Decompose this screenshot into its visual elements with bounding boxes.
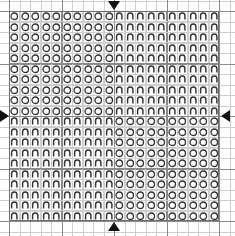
stitch-cell bbox=[114, 106, 125, 117]
stitch-cell bbox=[167, 127, 178, 138]
stitch-cell bbox=[209, 11, 220, 22]
stitch-cell bbox=[146, 95, 157, 106]
stitch-cell bbox=[9, 179, 20, 190]
stitch-cell bbox=[20, 190, 31, 201]
stitch-cell bbox=[20, 169, 31, 180]
stitch-cell bbox=[104, 148, 115, 159]
stitch-cell bbox=[30, 158, 41, 169]
stitch-cell bbox=[177, 190, 188, 201]
stitch-cell bbox=[198, 200, 209, 211]
stitch-cell bbox=[135, 106, 146, 117]
stitch-cell bbox=[104, 200, 115, 211]
stitch-cell bbox=[41, 211, 52, 222]
stitch-cell bbox=[114, 22, 125, 33]
stitch-cell bbox=[62, 127, 73, 138]
stitch-cell bbox=[62, 85, 73, 96]
stitch-cell bbox=[125, 106, 136, 117]
stitch-cell bbox=[51, 53, 62, 64]
stitch-cell bbox=[72, 148, 83, 159]
stitch-cell bbox=[188, 43, 199, 54]
stitch-cell bbox=[104, 22, 115, 33]
stitch-cell bbox=[72, 32, 83, 43]
stitch-cell bbox=[20, 22, 31, 33]
stitch-cell bbox=[156, 43, 167, 54]
stitch-cell bbox=[93, 190, 104, 201]
stitch-cell bbox=[72, 43, 83, 54]
stitch-cell bbox=[72, 211, 83, 222]
stitch-cell bbox=[156, 74, 167, 85]
stitch-cell bbox=[135, 158, 146, 169]
stitch-cell bbox=[198, 74, 209, 85]
stitch-cell bbox=[93, 85, 104, 96]
stitch-cell bbox=[51, 148, 62, 159]
stitch-cell bbox=[62, 179, 73, 190]
stitch-cell bbox=[41, 43, 52, 54]
stitch-cell bbox=[20, 74, 31, 85]
stitch-cell bbox=[51, 85, 62, 96]
stitch-cell bbox=[135, 169, 146, 180]
stitch-cell bbox=[114, 148, 125, 159]
stitch-cell bbox=[93, 116, 104, 127]
stitch-cell bbox=[146, 43, 157, 54]
stitch-cell bbox=[156, 116, 167, 127]
stitch-cell bbox=[135, 190, 146, 201]
stitch-cell bbox=[51, 137, 62, 148]
stitch-cell bbox=[209, 106, 220, 117]
stitch-cell bbox=[9, 64, 20, 75]
stitch-cell bbox=[146, 64, 157, 75]
stitch-cell bbox=[62, 137, 73, 148]
stitch-cell bbox=[9, 53, 20, 64]
stitch-cell bbox=[156, 158, 167, 169]
stitch-cell bbox=[114, 211, 125, 222]
stitch-cell bbox=[83, 116, 94, 127]
stitch-cell bbox=[198, 11, 209, 22]
stitch-cell bbox=[9, 200, 20, 211]
stitch-cell bbox=[104, 53, 115, 64]
stitch-cell bbox=[20, 158, 31, 169]
stitch-cell bbox=[188, 137, 199, 148]
stitch-cell bbox=[9, 190, 20, 201]
stitch-cell bbox=[83, 211, 94, 222]
stitch-cell bbox=[146, 190, 157, 201]
stitch-cell bbox=[114, 169, 125, 180]
stitch-cell bbox=[146, 11, 157, 22]
stitch-cell bbox=[125, 158, 136, 169]
stitch-cell bbox=[146, 211, 157, 222]
stitch-cell bbox=[104, 32, 115, 43]
stitch-cell bbox=[51, 158, 62, 169]
stitch-cell bbox=[72, 127, 83, 138]
stitch-cell bbox=[41, 53, 52, 64]
stitch-cell bbox=[177, 43, 188, 54]
stitch-cell bbox=[198, 158, 209, 169]
stitch-cell bbox=[167, 137, 178, 148]
stitch-cell bbox=[104, 116, 115, 127]
stitch-cell bbox=[156, 200, 167, 211]
stitch-cell bbox=[9, 106, 20, 117]
stitch-cell bbox=[20, 179, 31, 190]
stitch-cell bbox=[114, 74, 125, 85]
stitch-cell bbox=[146, 137, 157, 148]
stitch-cell bbox=[51, 169, 62, 180]
stitch-cell bbox=[51, 127, 62, 138]
stitch-cell bbox=[20, 11, 31, 22]
stitch-cell bbox=[62, 158, 73, 169]
stitch-cell bbox=[9, 11, 20, 22]
stitch-cell bbox=[20, 32, 31, 43]
stitch-cell bbox=[188, 53, 199, 64]
stitch-cell bbox=[125, 169, 136, 180]
stitch-cell bbox=[72, 158, 83, 169]
stitch-cell bbox=[83, 11, 94, 22]
stitch-cell bbox=[167, 64, 178, 75]
stitch-cell bbox=[62, 148, 73, 159]
stitch-cell bbox=[198, 137, 209, 148]
stitch-cell bbox=[41, 158, 52, 169]
stitch-cell bbox=[83, 53, 94, 64]
stitch-cell bbox=[104, 11, 115, 22]
stitch-cell bbox=[72, 11, 83, 22]
stitch-cell bbox=[104, 190, 115, 201]
stitch-cell bbox=[209, 169, 220, 180]
stitch-cell bbox=[83, 64, 94, 75]
stitch-cell bbox=[41, 95, 52, 106]
stitch-cell bbox=[104, 106, 115, 117]
stitch-cell bbox=[188, 106, 199, 117]
